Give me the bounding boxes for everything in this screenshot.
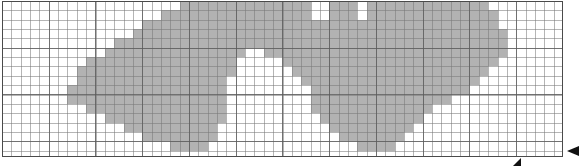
shaded-cell-run <box>77 76 227 85</box>
shaded-cell-run <box>133 29 507 38</box>
shaded-cell-run <box>142 132 217 141</box>
shaded-cell-run <box>67 95 226 104</box>
shaded-cell-run <box>311 95 451 104</box>
shaded-cell-run <box>339 132 404 141</box>
shaded-cell-run <box>86 57 236 66</box>
left-arrow-icon <box>567 146 579 156</box>
shaded-cell-run <box>142 20 320 29</box>
shaded-cell-run <box>161 10 311 19</box>
shaded-cell-run <box>311 104 433 113</box>
shaded-cell-run <box>180 1 311 10</box>
up-right-triangle-icon <box>513 158 521 166</box>
shaded-cell-run <box>105 48 245 57</box>
shaded-cell-run <box>320 20 498 29</box>
shaded-cell-run <box>367 10 498 19</box>
shaded-cell-run <box>367 1 489 10</box>
shaded-cell-run <box>67 85 226 94</box>
shaded-cell-run <box>124 123 218 132</box>
shaded-region-layer <box>2 1 563 157</box>
shaded-cell-run <box>264 48 507 57</box>
graph-paper-plate <box>2 1 563 157</box>
shaded-cell-run <box>86 104 226 113</box>
shaded-cell-run <box>77 66 236 75</box>
shaded-cell-run <box>170 141 207 150</box>
shaded-cell-run <box>320 113 423 122</box>
shaded-cell-run <box>292 66 488 75</box>
shaded-cell-run <box>301 76 479 85</box>
shaded-cell-run <box>105 113 227 122</box>
shaded-cell-run <box>329 10 357 19</box>
shaded-cell-run <box>329 1 357 10</box>
shaded-cell-run <box>311 85 470 94</box>
shaded-cell-run <box>283 57 498 66</box>
shaded-cell-run <box>329 123 413 132</box>
shaded-cell-run <box>114 38 507 47</box>
figure-root <box>0 0 582 167</box>
shaded-cell-run <box>357 141 394 150</box>
